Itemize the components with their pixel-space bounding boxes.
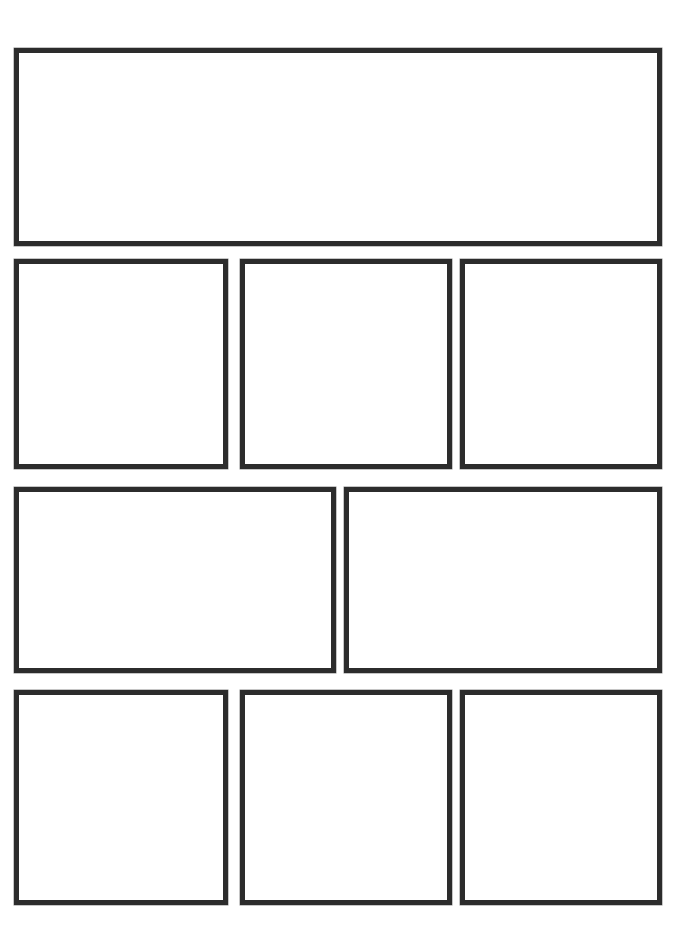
panel-6-canvas[interactable] bbox=[349, 492, 657, 668]
panel-row-3 bbox=[14, 487, 662, 673]
panel-6[interactable] bbox=[344, 487, 662, 673]
panel-7-canvas[interactable] bbox=[19, 695, 223, 900]
panel-2[interactable] bbox=[14, 259, 228, 469]
panel-4[interactable] bbox=[460, 259, 662, 469]
panel-3[interactable] bbox=[240, 259, 452, 469]
panel-row-4 bbox=[14, 690, 662, 905]
comic-page-template bbox=[0, 0, 700, 943]
panel-1[interactable] bbox=[14, 48, 662, 246]
panel-7[interactable] bbox=[14, 690, 228, 905]
panel-row-2 bbox=[14, 259, 662, 469]
panel-8-canvas[interactable] bbox=[245, 695, 447, 900]
panel-8[interactable] bbox=[240, 690, 452, 905]
panel-5-canvas[interactable] bbox=[19, 492, 331, 668]
panel-4-canvas[interactable] bbox=[465, 264, 657, 464]
page-sheet bbox=[0, 0, 700, 943]
panel-1-canvas[interactable] bbox=[19, 53, 657, 241]
panel-row-1 bbox=[14, 48, 662, 246]
panel-3-canvas[interactable] bbox=[245, 264, 447, 464]
panel-9-canvas[interactable] bbox=[465, 695, 657, 900]
panel-5[interactable] bbox=[14, 487, 336, 673]
panel-9[interactable] bbox=[460, 690, 662, 905]
panel-2-canvas[interactable] bbox=[19, 264, 223, 464]
